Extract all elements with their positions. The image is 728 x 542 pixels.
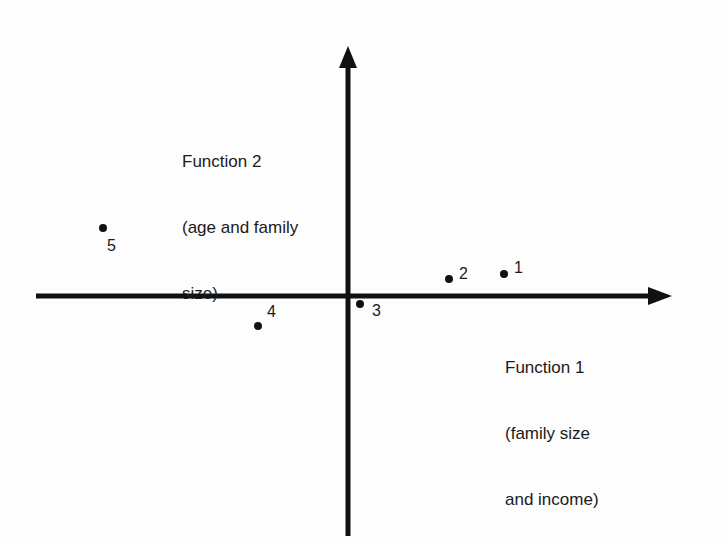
x-axis-arrowhead-icon <box>648 287 672 305</box>
data-point-1 <box>500 270 508 278</box>
y-axis-title-line: Function 2 <box>182 151 298 173</box>
point-label-2: 2 <box>459 265 468 283</box>
discriminant-plot <box>0 0 728 542</box>
data-point-5 <box>99 224 107 232</box>
x-axis-subtitle-line2: and income) <box>505 489 599 511</box>
x-axis-title: Function 1 (family size and income) <box>505 313 599 533</box>
y-axis-title: Function 2 (age and family size) <box>182 107 298 327</box>
y-axis-arrowhead-icon <box>339 46 357 68</box>
data-point-2 <box>445 275 453 283</box>
data-point-3 <box>356 300 364 308</box>
point-label-1: 1 <box>514 259 523 277</box>
point-label-3: 3 <box>372 302 381 320</box>
y-axis-subtitle-line1: (age and family <box>182 217 298 239</box>
x-axis-subtitle-line1: (family size <box>505 423 599 445</box>
point-label-5: 5 <box>107 237 116 255</box>
x-axis-title-line: Function 1 <box>505 357 599 379</box>
y-axis-subtitle-line2: size) <box>182 283 298 305</box>
